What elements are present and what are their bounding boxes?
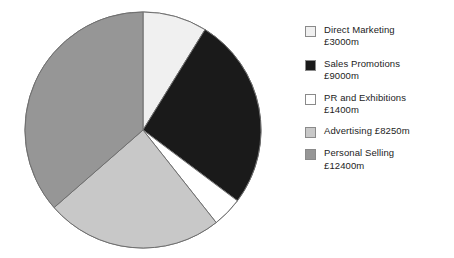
pie-chart-area [0,0,290,258]
legend-item[interactable]: Sales Promotions £9000m [305,58,454,83]
legend-item[interactable]: Direct Marketing £3000m [305,24,454,49]
chart-legend: Direct Marketing £3000mSales Promotions … [305,24,454,181]
legend-swatch-personal-selling [305,149,316,160]
legend-swatch-advertising [305,127,316,138]
legend-swatch-pr-and-exhibitions [305,94,316,105]
legend-item[interactable]: PR and Exhibitions £1400m [305,92,454,117]
legend-item-label: Sales Promotions £9000m [324,58,400,83]
legend-item-label: Personal Selling £12400m [324,147,394,172]
legend-item[interactable]: Personal Selling £12400m [305,147,454,172]
legend-item-label: PR and Exhibitions £1400m [324,92,406,117]
legend-item[interactable]: Advertising £8250m [305,125,454,138]
legend-swatch-sales-promotions [305,60,316,71]
legend-item-label: Direct Marketing £3000m [324,24,395,49]
pie-chart-svg [0,0,290,258]
legend-swatch-direct-marketing [305,26,316,37]
legend-item-label: Advertising £8250m [324,125,410,137]
